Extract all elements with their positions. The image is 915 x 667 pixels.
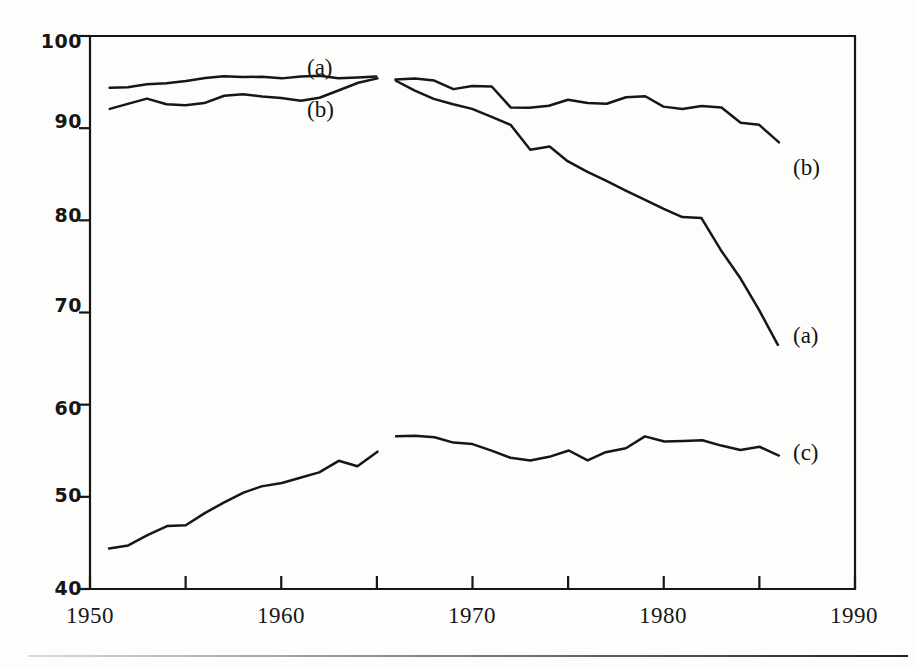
ytick-label-40: 40 [36, 577, 82, 599]
series-label-a-right: (a) [793, 323, 819, 349]
line-chart-plot [0, 0, 915, 667]
axis-ticks [79, 36, 855, 589]
ytick-label-90: 90 [36, 110, 82, 132]
series-label-a-left: (a) [307, 55, 333, 81]
scan-artifact-rule [28, 655, 908, 657]
chart-figure: 100 90 80 70 60 50 40 1950 1960 1970 198… [0, 0, 915, 667]
xtick-label-1990: 1990 [814, 603, 894, 629]
ytick-label-80: 80 [36, 204, 82, 226]
xtick-label-1950: 1950 [50, 603, 130, 629]
xtick-label-1960: 1960 [241, 603, 321, 629]
ytick-label-60: 60 [36, 397, 82, 419]
ytick-label-100: 100 [36, 30, 82, 52]
ytick-label-70: 70 [36, 294, 82, 316]
plot-frame [90, 36, 855, 589]
xtick-label-1970: 1970 [432, 603, 512, 629]
ytick-label-50: 50 [36, 484, 82, 506]
series-label-c-right: (c) [793, 440, 819, 466]
series-lines [109, 76, 779, 549]
series-label-b-left: (b) [307, 97, 334, 123]
xtick-label-1980: 1980 [623, 603, 703, 629]
series-label-b-right: (b) [793, 155, 820, 181]
